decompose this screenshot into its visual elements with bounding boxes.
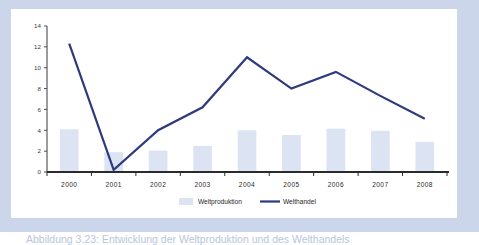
y-tick-label: 6 — [38, 106, 42, 113]
chart-area: 0246810121420002001200220032004200520062… — [11, 9, 457, 218]
bar-weltproduktion — [238, 130, 257, 172]
x-tick-label: 2005 — [283, 181, 299, 188]
y-tick-label: 2 — [38, 147, 42, 154]
legend-label-welthandel: Welthandel — [283, 198, 316, 205]
y-tick-label: 10 — [34, 64, 41, 71]
combo-chart: 0246810121420002001200220032004200520062… — [11, 9, 457, 218]
figure-caption-text: Abbildung 3.23: Entwicklung der Weltprod… — [26, 233, 350, 245]
x-tick-label: 2000 — [61, 181, 77, 188]
bar-weltproduktion — [327, 129, 346, 172]
x-tick-label: 2002 — [150, 181, 166, 188]
y-tick-label: 12 — [34, 43, 41, 50]
x-tick-label: 2006 — [328, 181, 344, 188]
bar-weltproduktion — [60, 129, 79, 172]
legend-label-weltproduktion: Weltproduktion — [198, 198, 242, 206]
bar-weltproduktion — [149, 151, 168, 172]
bar-weltproduktion — [282, 135, 301, 172]
y-tick-label: 0 — [38, 168, 42, 175]
figure-caption: Abbildung 3.23: Entwicklung der Weltprod… — [0, 232, 479, 245]
bar-weltproduktion — [415, 142, 434, 172]
y-tick-label: 4 — [38, 127, 42, 134]
figure-root: 0246810121420002001200220032004200520062… — [0, 0, 479, 245]
x-tick-label: 2004 — [239, 181, 255, 188]
legend-swatch-weltproduktion — [179, 198, 193, 205]
x-tick-label: 2003 — [194, 181, 210, 188]
y-tick-label: 14 — [34, 22, 41, 29]
bar-weltproduktion — [193, 146, 212, 172]
y-tick-label: 8 — [38, 85, 42, 92]
x-tick-label: 2001 — [106, 181, 122, 188]
x-tick-label: 2007 — [372, 181, 388, 188]
x-tick-label: 2008 — [417, 181, 433, 188]
bar-weltproduktion — [371, 131, 390, 172]
